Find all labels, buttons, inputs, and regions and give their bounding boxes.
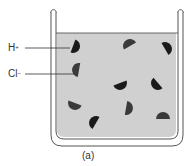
hydrogen-ion-charge: +: [15, 44, 19, 50]
figure-caption: (a): [82, 150, 94, 161]
hydrogen-ion-label: H+: [8, 43, 19, 53]
chloride-ion-charge: −: [17, 70, 21, 76]
beaker-rim-right: [178, 10, 183, 13]
beaker-rim-left: [51, 10, 56, 13]
chloride-ion-label: Cl−: [8, 69, 21, 79]
figure-beaker-diagram: H+ Cl− (a): [0, 0, 192, 166]
beaker-illustration: [0, 0, 192, 166]
